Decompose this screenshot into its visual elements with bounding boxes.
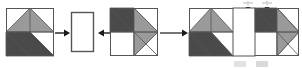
arrow-head xyxy=(182,30,188,37)
spacer-outline xyxy=(233,8,255,56)
spacer-outline xyxy=(72,13,94,52)
arrow-head xyxy=(98,30,104,37)
result-spacer xyxy=(233,8,255,56)
arrow-right-to-spacer xyxy=(55,29,71,37)
white-spacer-rectangle xyxy=(71,12,94,52)
assembly-diagram xyxy=(0,0,302,67)
pieced-square-left xyxy=(6,8,54,56)
swatch-fill xyxy=(257,62,268,68)
arrow-to-result xyxy=(160,29,189,37)
fabric-swatch-light xyxy=(234,61,246,67)
assembled-block-unit xyxy=(189,8,299,56)
fabric-swatch-dark xyxy=(256,61,268,67)
arrow-head xyxy=(64,30,70,37)
pieced-square-right xyxy=(110,8,158,56)
swatch-fill xyxy=(235,62,246,68)
